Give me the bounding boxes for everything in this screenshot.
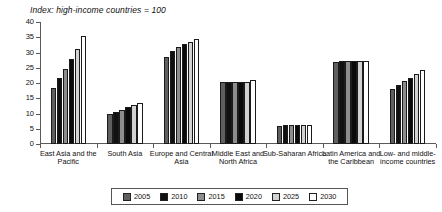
legend-label: 2005	[134, 193, 150, 201]
bar-2025	[75, 49, 80, 144]
bar-2010	[226, 82, 231, 144]
bar-2025	[414, 74, 419, 144]
bar-2010	[396, 85, 401, 144]
x-tick	[40, 144, 41, 148]
bar-2005	[51, 88, 56, 144]
bar-2030	[363, 61, 368, 144]
category-label: Low- and middle-income countries	[373, 150, 442, 167]
bar-group	[153, 39, 210, 144]
chart-title: Index: high-income countries = 100	[30, 5, 166, 15]
bar-2015	[63, 69, 68, 144]
bar-2005	[333, 62, 338, 144]
y-tick-label: 15	[26, 95, 34, 103]
bar-2015	[289, 125, 294, 144]
bar-2020	[69, 59, 74, 144]
y-tick-label: 5	[30, 125, 34, 133]
bar-group	[40, 36, 97, 144]
x-tick	[436, 144, 437, 148]
y-tick-label: 40	[26, 18, 34, 26]
x-tick	[210, 144, 211, 148]
bar-2020	[238, 82, 243, 144]
bar-2030	[81, 36, 86, 144]
bar-2020	[351, 61, 356, 144]
bar-2025	[301, 125, 306, 144]
bar-2015	[402, 81, 407, 144]
y-tick-label: 30	[26, 49, 34, 57]
x-tick	[266, 144, 267, 148]
bar-2005	[390, 89, 395, 144]
legend-item-2010[interactable]: 2010	[160, 193, 187, 201]
bar-group	[323, 61, 380, 144]
legend-swatch-icon	[197, 193, 205, 201]
x-tick	[323, 144, 324, 148]
legend-label: 2020	[246, 193, 262, 201]
bar-2010	[339, 61, 344, 144]
y-tick-label: 25	[26, 64, 34, 72]
x-tick	[379, 144, 380, 148]
legend-item-2025[interactable]: 2025	[272, 193, 299, 201]
y-tick-label: 10	[26, 110, 34, 118]
bar-2025	[357, 61, 362, 144]
bar-group	[97, 103, 154, 144]
bar-2030	[307, 125, 312, 144]
bar-2010	[113, 112, 118, 144]
bar-group	[379, 70, 436, 144]
bar-2030	[250, 80, 255, 144]
legend-swatch-icon	[235, 193, 243, 201]
y-tick-label: 0	[30, 140, 34, 148]
bar-2025	[131, 105, 136, 144]
bar-group	[266, 125, 323, 144]
bar-2015	[119, 110, 124, 144]
x-tick	[153, 144, 154, 148]
y-tick-label: 20	[26, 79, 34, 87]
legend-label: 2030	[320, 193, 336, 201]
bar-2020	[408, 78, 413, 144]
bar-2005	[107, 114, 112, 144]
bar-2030	[194, 39, 199, 144]
bar-2005	[164, 57, 169, 144]
bar-2005	[220, 82, 225, 144]
bar-2015	[176, 47, 181, 144]
legend-item-2005[interactable]: 2005	[123, 193, 150, 201]
legend-swatch-icon	[160, 193, 168, 201]
bar-2015	[232, 82, 237, 144]
legend-item-2015[interactable]: 2015	[197, 193, 224, 201]
legend-item-2030[interactable]: 2030	[309, 193, 336, 201]
bar-2025	[244, 82, 249, 144]
bar-2005	[277, 126, 282, 144]
bar-chart: Index: high-income countries = 100 05101…	[0, 0, 442, 212]
legend-label: 2025	[283, 193, 299, 201]
bar-2030	[137, 103, 142, 144]
legend-swatch-icon	[123, 193, 131, 201]
bar-2015	[345, 61, 350, 144]
legend-item-2020[interactable]: 2020	[235, 193, 262, 201]
bar-2010	[283, 125, 288, 144]
plot-area: 0510152025303540	[40, 22, 436, 144]
bar-2020	[295, 125, 300, 144]
legend-label: 2010	[171, 193, 187, 201]
bar-group	[210, 80, 267, 144]
bar-2020	[125, 107, 130, 144]
chart-legend: 200520102015202020252030	[111, 188, 348, 205]
legend-swatch-icon	[309, 193, 317, 201]
y-tick-label: 35	[26, 34, 34, 42]
y-tick	[36, 22, 40, 23]
bar-2025	[188, 42, 193, 144]
legend-label: 2015	[208, 193, 224, 201]
bar-2020	[182, 44, 187, 144]
legend-swatch-icon	[272, 193, 280, 201]
x-tick	[97, 144, 98, 148]
bar-2010	[57, 78, 62, 144]
bar-2010	[170, 51, 175, 144]
bar-2030	[420, 70, 425, 144]
